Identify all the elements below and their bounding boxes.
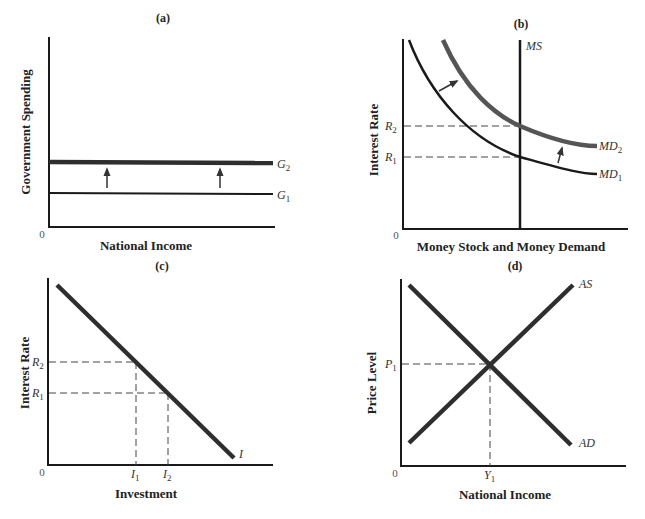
panel-b-x-label: Money Stock and Money Demand — [417, 239, 606, 254]
panel-d-x-label: National Income — [459, 487, 551, 502]
panel-a: (a) 0 National Income Government Spendin… — [18, 11, 290, 253]
panel-c: (c) 0 Investment Interest Rate I R2 R1 I… — [17, 259, 273, 501]
panel-d-title: (d) — [508, 259, 523, 273]
ms-label: MS — [525, 39, 542, 53]
figure-canvas: (a) 0 National Income Government Spendin… — [0, 0, 645, 519]
panel-a-title: (a) — [156, 11, 170, 25]
ad-label: AD — [578, 436, 595, 450]
panel-c-y-label: Interest Rate — [17, 337, 32, 410]
shift-up-arrow-icon — [558, 148, 562, 163]
r1-label: R1 — [384, 150, 397, 166]
investment-line — [57, 285, 234, 458]
panel-b-origin: 0 — [393, 229, 399, 241]
y1-label: Y1 — [484, 468, 495, 484]
g1-line — [49, 193, 273, 194]
md1-curve — [409, 40, 597, 174]
r2-label: R2 — [31, 355, 44, 371]
as-label: AS — [578, 277, 592, 291]
investment-curve-label: I — [238, 447, 244, 461]
md1-label: MD1 — [598, 167, 622, 183]
i2-label: I2 — [162, 467, 172, 483]
panel-c-origin: 0 — [39, 466, 45, 478]
panel-b-title: (b) — [514, 17, 529, 31]
panel-d: (d) 0 National Income Price Level AS AD … — [364, 259, 626, 502]
panel-a-y-label: Government Spending — [18, 69, 33, 195]
md2-label: MD2 — [598, 139, 622, 155]
panel-a-x-label: National Income — [100, 238, 192, 253]
panel-c-x-label: Investment — [115, 486, 178, 501]
panel-d-origin: 0 — [392, 467, 398, 479]
g2-line — [49, 162, 273, 163]
r2-label: R2 — [384, 119, 397, 135]
panel-d-y-label: Price Level — [364, 351, 379, 414]
panel-b-y-label: Interest Rate — [366, 104, 381, 177]
r1-label: R1 — [31, 386, 44, 402]
panel-b: (b) 0 Money Stock and Money Demand Inter… — [366, 17, 628, 254]
p1-label: P1 — [384, 357, 397, 373]
i1-label: I1 — [130, 467, 140, 483]
panel-c-title: (c) — [155, 259, 168, 273]
panel-a-origin: 0 — [39, 228, 45, 240]
g1-label: G1 — [277, 188, 290, 204]
shift-right-arrow-icon — [439, 81, 457, 91]
g2-label: G2 — [277, 157, 290, 173]
